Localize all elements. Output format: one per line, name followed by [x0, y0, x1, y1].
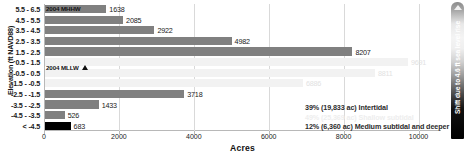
x-tick-label: 10000	[409, 133, 428, 140]
bar-row[interactable]: 3.5 - 4.52922	[44, 25, 441, 36]
bar-value-label: 1433	[102, 100, 117, 109]
y-tick-label: -3.5 - -2.5	[11, 100, 40, 109]
x-tick-label: 0	[42, 133, 46, 140]
bar-value-label: 3718	[187, 89, 202, 98]
bar-value-label: 526	[68, 111, 79, 120]
bar-value-label: 1638	[109, 5, 124, 14]
datum-marker-mllw: 2004 MLLW	[46, 64, 88, 71]
bar-value-label: 2085	[126, 15, 141, 24]
annotation-shallow-subtidal: 49% (25,369 ac) Shallow subtidal	[305, 113, 414, 122]
bar-row[interactable]: -0.5 - 0.58811	[44, 68, 441, 79]
y-tick-label: 3.5 - 4.5	[15, 26, 40, 35]
triangle-up-icon	[82, 65, 88, 70]
bar-row[interactable]: -1.5 - -0.56886	[44, 78, 441, 89]
bar[interactable]	[45, 37, 232, 45]
sea-level-rise-label: Shift due to 4.6 ft sea level rise	[454, 2, 461, 136]
y-tick-label: 4.5 - 5.5	[15, 15, 40, 24]
x-tick-label: 6000	[261, 133, 277, 140]
y-tick-label: < -4.5	[23, 121, 40, 130]
x-axis-title: Acres	[44, 143, 441, 153]
x-tick-label: 2000	[111, 133, 127, 140]
bar-row[interactable]: 0.5 - 1.59691	[44, 57, 441, 68]
sea-level-rise-gradient-bar: Shift due to 4.6 ft sea level rise	[451, 2, 464, 139]
y-tick-label: -1.5 - -0.5	[11, 79, 40, 88]
bar-value-label: 2922	[157, 26, 172, 35]
bar-row[interactable]: 2.5 - 3.54982	[44, 36, 441, 47]
y-tick-label: -2.5 - -1.5	[11, 89, 40, 98]
bar[interactable]	[45, 100, 99, 108]
y-tick-label: -0.5 - 0.5	[13, 68, 40, 77]
bar-row[interactable]: 1.5 - 2.58207	[44, 46, 441, 57]
bar-value-label: 4982	[235, 37, 250, 46]
x-tick-label: 8000	[336, 133, 352, 140]
bar[interactable]	[45, 69, 375, 77]
bar[interactable]	[45, 47, 352, 55]
datum-label-mllw: 2004 MLLW	[46, 64, 79, 71]
bar-value-label: 8207	[355, 47, 370, 56]
y-tick-label: 0.5 - 1.5	[15, 58, 40, 67]
bar-value-label: 6886	[306, 79, 321, 88]
y-tick-label: 2.5 - 3.5	[15, 37, 40, 46]
x-tick-label: 4000	[186, 133, 202, 140]
elevation-acres-bar-chart: Elevation (ft NAVD88) 5.5 - 6.516384.5 -…	[0, 0, 465, 157]
bar-row[interactable]: 4.5 - 5.52085	[44, 15, 441, 26]
y-tick-label: -4.5 - -3.5	[11, 111, 40, 120]
y-tick-label: 5.5 - 6.5	[15, 5, 40, 14]
bar-value-label: 8811	[378, 68, 393, 77]
bar[interactable]	[45, 16, 123, 24]
bar-row[interactable]: 5.5 - 6.51638	[44, 4, 441, 15]
bar[interactable]	[45, 122, 71, 130]
annotation-intertidal: 39% (19,833 ac) Intertidal	[305, 103, 388, 112]
bar-value-label: 683	[74, 121, 85, 130]
annotation-medium-subtidal: 12% (6,360 ac) Medium subtidal and deepe…	[305, 122, 449, 131]
datum-marker-mhhw: 2004 MHHW	[46, 5, 81, 12]
y-tick-label: 1.5 - 2.5	[15, 47, 40, 56]
bar-row[interactable]: -2.5 - -1.53718	[44, 89, 441, 100]
bar-value-label: 9691	[411, 58, 426, 67]
bar[interactable]	[45, 79, 303, 87]
bar[interactable]	[45, 26, 154, 34]
bar[interactable]	[45, 90, 184, 98]
datum-label-mhhw: 2004 MHHW	[46, 5, 81, 12]
bar[interactable]	[45, 111, 65, 119]
bar[interactable]	[45, 58, 408, 66]
